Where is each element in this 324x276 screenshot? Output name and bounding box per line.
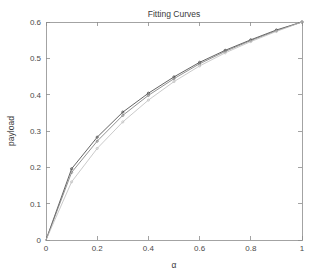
x-tick-label: 0.8 (245, 244, 257, 253)
x-tick-label: 0.6 (194, 244, 206, 253)
y-tick-label: 0.6 (30, 18, 42, 27)
x-tick-label: 0.4 (143, 244, 155, 253)
figure-canvas: 00.10.20.30.40.50.6 00.20.40.60.81 Fitti… (0, 0, 324, 276)
plot-area-background (46, 22, 302, 240)
y-tick-label: 0.3 (30, 127, 42, 136)
y-tick-label: 0 (37, 236, 42, 245)
y-tick-label: 0.2 (30, 163, 42, 172)
x-tick-label: 0 (44, 244, 49, 253)
y-tick-label: 0.5 (30, 54, 42, 63)
fitting-curves-chart: 00.10.20.30.40.50.6 00.20.40.60.81 Fitti… (0, 0, 324, 276)
y-tick-label: 0.4 (30, 91, 42, 100)
x-tick-label: 1 (300, 244, 305, 253)
y-tick-label: 0.1 (30, 200, 42, 209)
y-axis-label: payload (6, 116, 16, 146)
x-axis-label: α (172, 260, 177, 270)
x-tick-label: 0.2 (92, 244, 104, 253)
chart-title: Fitting Curves (148, 9, 200, 19)
